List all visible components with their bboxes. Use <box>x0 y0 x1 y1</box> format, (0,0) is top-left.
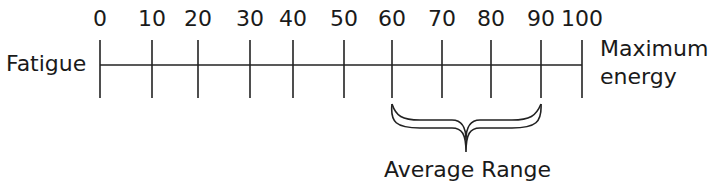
tick-label-30: 30 <box>236 8 264 30</box>
right-label-energy: energy <box>600 66 677 88</box>
tick-label-100: 100 <box>561 8 603 30</box>
tick-label-0: 0 <box>93 8 107 30</box>
tick-label-70: 70 <box>428 8 456 30</box>
bracket-label-average-range: Average Range <box>384 159 551 181</box>
tick-label-80: 80 <box>477 8 505 30</box>
tick-label-90: 90 <box>527 8 555 30</box>
tick-marks <box>100 40 582 98</box>
left-label-fatigue: Fatigue <box>6 53 86 75</box>
tick-label-40: 40 <box>279 8 307 30</box>
right-label-maximum: Maximum <box>600 38 708 60</box>
range-brace <box>392 104 541 152</box>
tick-label-60: 60 <box>378 8 406 30</box>
tick-label-10: 10 <box>138 8 166 30</box>
tick-label-20: 20 <box>184 8 212 30</box>
tick-label-50: 50 <box>330 8 358 30</box>
